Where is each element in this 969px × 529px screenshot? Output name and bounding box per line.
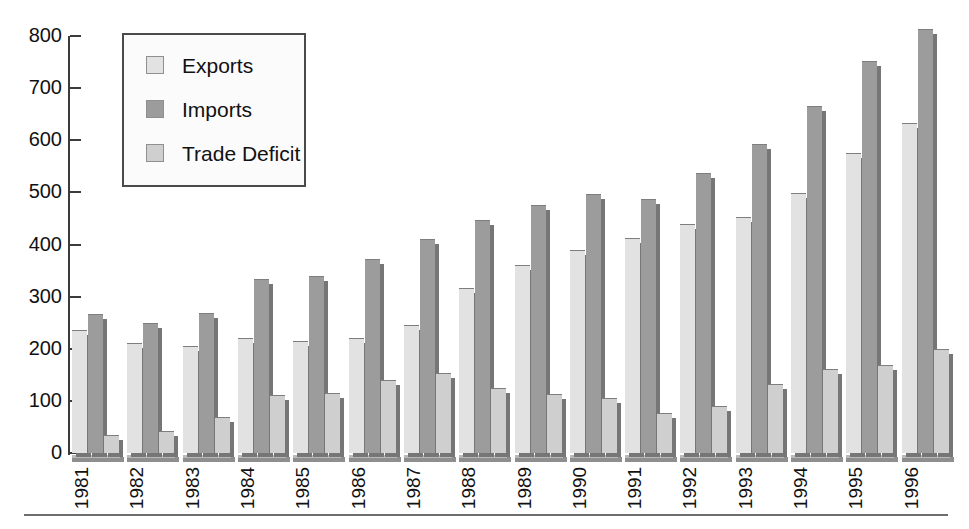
bar-face xyxy=(736,217,751,453)
bar-exports[interactable] xyxy=(791,194,806,453)
bar-exports[interactable] xyxy=(902,124,917,453)
bar-exports[interactable] xyxy=(680,225,695,453)
bar-face xyxy=(807,106,822,453)
bar-exports[interactable] xyxy=(736,218,751,453)
bar-face xyxy=(104,435,119,453)
bar-shadow xyxy=(396,385,400,457)
bar-shadow-base xyxy=(740,453,755,457)
x-axis-label-text: 1984 xyxy=(238,467,257,509)
bar-imports[interactable] xyxy=(531,206,546,453)
bar-shadow xyxy=(562,399,566,457)
bar-trade-deficit[interactable] xyxy=(657,414,672,453)
bar-trade-deficit[interactable] xyxy=(712,407,727,453)
y-axis-tick-label: 0 xyxy=(16,442,62,462)
bar-exports[interactable] xyxy=(127,344,142,453)
bar-shadow xyxy=(451,378,455,457)
bar-face xyxy=(254,279,269,453)
x-axis-label: 1990 xyxy=(570,462,622,520)
legend-label: Trade Deficit xyxy=(182,142,300,166)
x-axis-label-text: 1987 xyxy=(404,467,423,509)
bar-exports[interactable] xyxy=(349,339,364,453)
bar-shadow-base xyxy=(242,453,257,457)
footer-divider xyxy=(24,514,948,516)
bar-shadow-base xyxy=(163,453,178,457)
y-axis-tick-label: 300 xyxy=(16,286,62,306)
y-axis-tick-label: 100 xyxy=(16,390,62,410)
bar-imports[interactable] xyxy=(143,324,158,453)
x-axis-label-text: 1985 xyxy=(293,467,312,509)
bar-shadow-base xyxy=(551,453,566,457)
bar-trade-deficit[interactable] xyxy=(823,370,838,453)
bar-shadow-base xyxy=(882,453,897,457)
bar-imports[interactable] xyxy=(696,174,711,453)
bar-trade-deficit[interactable] xyxy=(159,432,174,453)
bar-imports[interactable] xyxy=(918,30,933,453)
x-axis-label-text: 1990 xyxy=(570,467,589,509)
bar-trade-deficit[interactable] xyxy=(878,366,893,453)
bar-exports[interactable] xyxy=(183,347,198,453)
x-axis-label: 1993 xyxy=(736,462,788,520)
bar-imports[interactable] xyxy=(475,221,490,453)
bar-exports[interactable] xyxy=(846,154,861,453)
bar-face xyxy=(420,239,435,453)
bar-trade-deficit[interactable] xyxy=(104,436,119,453)
bar-exports[interactable] xyxy=(293,342,308,453)
bar-imports[interactable] xyxy=(586,195,601,453)
bar-shadow-base xyxy=(684,453,699,457)
bar-shadow-base xyxy=(408,453,423,457)
bar-shadow-base xyxy=(297,453,312,457)
bar-shadow xyxy=(617,403,621,457)
bar-exports[interactable] xyxy=(72,331,87,453)
bar-exports[interactable] xyxy=(238,339,253,453)
bar-imports[interactable] xyxy=(807,107,822,453)
bar-shadow-base xyxy=(385,453,400,457)
bar-imports[interactable] xyxy=(420,240,435,453)
bar-exports[interactable] xyxy=(459,289,474,453)
bar-exports[interactable] xyxy=(625,239,640,453)
bar-trade-deficit[interactable] xyxy=(934,350,949,453)
bar-face xyxy=(902,123,917,453)
bar-exports[interactable] xyxy=(515,266,530,453)
bar-trade-deficit[interactable] xyxy=(381,381,396,453)
bar-shadow-base xyxy=(756,453,771,457)
bar-shadow-base xyxy=(463,453,478,457)
x-axis-label: 1985 xyxy=(293,462,345,520)
bar-trade-deficit[interactable] xyxy=(215,418,230,453)
bar-imports[interactable] xyxy=(254,280,269,453)
bar-trade-deficit[interactable] xyxy=(768,385,783,453)
bar-imports[interactable] xyxy=(88,315,103,453)
x-axis-label: 1982 xyxy=(127,462,179,520)
bar-shadow xyxy=(727,411,731,457)
bar-face xyxy=(404,325,419,453)
bar-imports[interactable] xyxy=(862,62,877,453)
bar-imports[interactable] xyxy=(365,260,380,453)
y-axis-tick-label: 600 xyxy=(16,129,62,149)
bar-trade-deficit[interactable] xyxy=(547,395,562,453)
bar-exports[interactable] xyxy=(404,326,419,453)
bar-imports[interactable] xyxy=(752,145,767,453)
bar-trade-deficit[interactable] xyxy=(602,399,617,453)
bar-exports[interactable] xyxy=(570,251,585,453)
bar-shadow-base xyxy=(369,453,384,457)
bar-shadow-base xyxy=(329,453,344,457)
bar-face xyxy=(475,220,490,453)
bar-imports[interactable] xyxy=(309,277,324,453)
x-axis-label-text: 1991 xyxy=(625,467,644,509)
bar-shadow-base xyxy=(424,453,439,457)
x-axis-label: 1989 xyxy=(515,462,567,520)
bar-imports[interactable] xyxy=(641,200,656,453)
bar-trade-deficit[interactable] xyxy=(491,389,506,453)
bar-face xyxy=(349,338,364,453)
bar-face xyxy=(680,224,695,453)
bar-trade-deficit[interactable] xyxy=(270,396,285,453)
bar-face xyxy=(127,343,142,453)
bar-shadow-base xyxy=(795,453,810,457)
bar-imports[interactable] xyxy=(199,314,214,453)
bar-face xyxy=(459,288,474,453)
bar-trade-deficit[interactable] xyxy=(436,374,451,453)
y-axis-tick-label: 200 xyxy=(16,338,62,358)
bar-face xyxy=(712,406,727,453)
bar-face xyxy=(752,144,767,453)
bar-trade-deficit[interactable] xyxy=(325,394,340,453)
bar-shadow xyxy=(783,389,787,457)
